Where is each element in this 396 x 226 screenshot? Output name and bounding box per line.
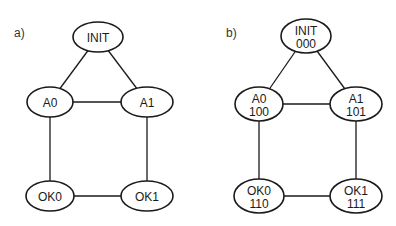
node-code: 000 [296,37,316,51]
node-name: INIT [295,24,318,38]
state-node-init: INIT [73,22,123,52]
node-name: OK1 [135,190,159,204]
state-node-a1: A1101 [330,87,382,121]
panel-label: a) [14,26,25,40]
state-node-a0: A0 [27,87,73,117]
panel-label: b) [226,26,237,40]
state-node-a0: A0100 [235,87,283,121]
node-name: A1 [140,96,155,110]
edges-layer [50,36,356,196]
node-code: 101 [346,105,366,119]
state-diagram: INITA0A1OK0OK1INIT000A0100A1101OK0110OK1… [0,0,396,226]
state-node-ok1: OK1 [121,181,173,211]
panel-labels: a)b) [14,26,237,40]
state-node-init: INIT000 [281,19,331,53]
node-code: 100 [249,105,269,119]
node-code: 110 [249,197,268,211]
state-node-ok0: OK0110 [234,179,284,213]
state-node-ok0: OK0 [26,181,74,211]
node-name: OK1 [344,184,368,198]
nodes-layer: INITA0A1OK0OK1INIT000A0100A1101OK0110OK1… [26,19,382,213]
node-name: OK0 [247,184,271,198]
node-name: INIT [87,31,110,45]
state-node-a1: A1 [121,87,173,117]
node-name: OK0 [38,190,62,204]
node-name: A1 [349,92,364,106]
node-name: A0 [43,96,58,110]
state-node-ok1: OK1111 [330,179,382,213]
node-name: A0 [252,92,267,106]
node-code: 111 [347,197,366,211]
